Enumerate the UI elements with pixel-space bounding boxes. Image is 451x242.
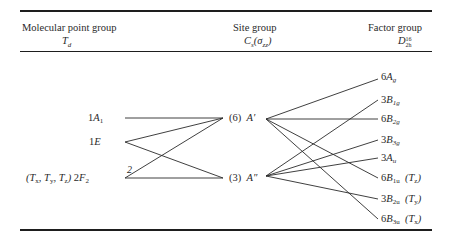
line-Adprime-B3g: [266, 140, 378, 176]
line-F2-Aprime: [125, 118, 223, 178]
site-species-Adprime: (3) A″: [229, 172, 257, 184]
factor-species-B2g: 6B2g: [381, 113, 400, 125]
site-species-Aprime: (6) A′: [229, 112, 255, 124]
factor-species-B2u: 3B2u (Ty): [381, 193, 421, 205]
right-correlation-lines: [266, 79, 378, 219]
line-E-Adprime: [125, 142, 223, 178]
species-1E: 1E: [89, 136, 101, 148]
factor-species-Au: 3Au: [381, 152, 396, 164]
factor-species-B1g: 3B1g: [381, 94, 400, 106]
line-E-Aprime: [125, 118, 223, 142]
line-Adprime-Au: [266, 158, 378, 176]
line-Adprime-B1g: [266, 100, 378, 176]
line-Aprime-Ag: [266, 79, 378, 119]
species-2F2: (Tx, Ty, Tz) 2F2: [26, 172, 89, 184]
factor-species-B3g: 3B3g: [381, 134, 400, 146]
factor-species-B3u: 6B3u (Tx): [381, 213, 421, 225]
degeneracy-annotation: 2: [127, 164, 132, 175]
line-Adprime-B2u: [266, 176, 378, 199]
factor-species-B1u: 6B1u (Tz): [381, 172, 421, 184]
left-correlation-lines: [125, 118, 223, 178]
factor-species-Ag: 6Ag: [381, 71, 396, 83]
species-1A1: 1A1: [88, 112, 103, 124]
